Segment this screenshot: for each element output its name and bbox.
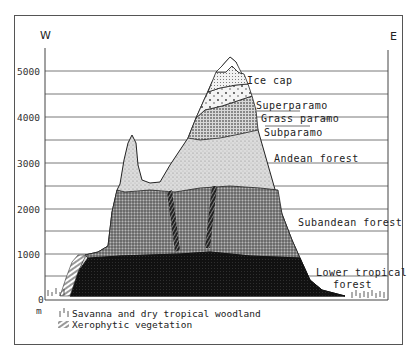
savanna-east (352, 290, 384, 298)
label-subandean-forest: Subandean forest (298, 217, 402, 228)
legend-xerophytic-label: Xerophytic vegetation (72, 319, 192, 330)
axis-unit: m (36, 305, 42, 316)
tick-3000: 3000 (17, 158, 40, 169)
label-lower-tropical-1: Lower tropical (316, 267, 407, 278)
tick-1000: 1000 (17, 249, 40, 260)
label-lower-tropical-2: forest (333, 279, 372, 290)
label-ice-cap: Ice cap (247, 75, 293, 86)
tick-2000: 2000 (17, 204, 40, 215)
label-subparamo: Subparamo (264, 127, 323, 138)
vegetation-profile-diagram: W E 5000 4000 3000 2000 1000 0 m Ice cap… (0, 0, 417, 360)
legend-savanna-label: Savanna and dry tropical woodland (72, 308, 261, 319)
west-label: W (40, 29, 51, 42)
label-superparamo: Superparamo (256, 100, 328, 111)
legend: Savanna and dry tropical woodland Xeroph… (58, 308, 261, 330)
label-andean-forest: Andean forest (274, 153, 359, 164)
zone-subandean-forest (85, 186, 300, 260)
tick-5000: 5000 (17, 66, 40, 77)
label-grass-paramo: Grass paramo (261, 113, 339, 124)
zone-lower-tropical-forest (70, 252, 345, 296)
tick-4000: 4000 (17, 112, 40, 123)
xerophytic-hatch-symbol (58, 321, 69, 328)
savanna-tick-symbol (60, 308, 68, 317)
tick-0: 0 (38, 294, 44, 305)
east-label: E (390, 30, 397, 43)
